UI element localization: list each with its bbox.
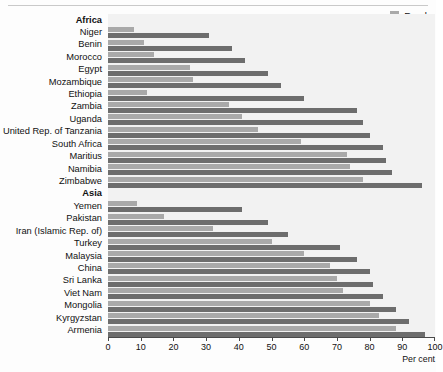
x-axis-tick-label: 30: [201, 342, 211, 352]
category-label: Uganda: [69, 114, 102, 125]
bar-rural: [108, 313, 379, 318]
bar-urban: [108, 257, 357, 262]
bar-urban: [108, 207, 242, 212]
bar-rural: [108, 152, 347, 157]
bar-row: [108, 77, 435, 89]
category-label: Turkey: [74, 238, 102, 249]
bar-urban: [108, 220, 268, 225]
bar-row: [108, 90, 435, 102]
plot-area: [108, 14, 435, 337]
bar-rural: [108, 102, 229, 107]
bar-row: [108, 152, 435, 164]
x-axis-title: Per cent: [402, 354, 435, 364]
bar-urban: [108, 46, 232, 51]
category-label: Mozambique: [49, 77, 102, 88]
bar-row: [108, 313, 435, 325]
category-group-label: Asia: [82, 188, 102, 199]
category-label: Namibia: [68, 164, 102, 175]
x-axis-tick: [272, 337, 273, 341]
category-label: Zimbabwe: [59, 176, 102, 187]
bar-rural: [108, 201, 137, 206]
x-axis-tick-label: 50: [266, 342, 276, 352]
bar-rural: [108, 164, 350, 169]
bar-row: [108, 114, 435, 126]
bar-rural: [108, 214, 164, 219]
bar-urban: [108, 294, 383, 299]
x-axis-tick: [402, 337, 403, 341]
x-axis-tick-label: 100: [427, 342, 442, 352]
bar-rural: [108, 288, 343, 293]
x-axis-tick: [239, 337, 240, 341]
bar-urban: [108, 282, 373, 287]
category-label: Niger: [80, 27, 102, 38]
x-axis-tick: [434, 337, 435, 341]
category-label: Armenia: [67, 325, 102, 336]
bar-urban: [108, 319, 409, 324]
x-axis-tick-label: 70: [332, 342, 342, 352]
bar-urban: [108, 108, 357, 113]
bar-rural: [108, 139, 301, 144]
category-axis-labels: AfricaNigerBeninMoroccoEgyptMozambiqueEt…: [0, 14, 105, 337]
x-axis-tick-label: 60: [299, 342, 309, 352]
x-axis-tick-label: 20: [168, 342, 178, 352]
category-group-label: Africa: [76, 15, 102, 26]
category-label: Yemen: [73, 201, 102, 212]
category-label: United Rep. of Tanzania: [3, 126, 102, 137]
bar-row: [108, 301, 435, 313]
bar-urban: [108, 71, 268, 76]
bar-rural: [108, 77, 193, 82]
bar-rural: [108, 40, 144, 45]
category-label: Egypt: [78, 64, 102, 75]
bar-rural: [108, 114, 242, 119]
bar-row: [108, 65, 435, 77]
bar-rural: [108, 52, 154, 57]
category-label: China: [78, 263, 102, 274]
x-axis-tick-label: 10: [136, 342, 146, 352]
bar-urban: [108, 170, 392, 175]
bar-urban: [108, 58, 245, 63]
bar-urban: [108, 145, 383, 150]
bar-rural: [108, 239, 272, 244]
bar-rural: [108, 65, 190, 70]
category-label: Benin: [78, 39, 102, 50]
x-axis-tick: [173, 337, 174, 341]
bar-row: [108, 201, 435, 213]
bar-urban: [108, 83, 281, 88]
bar-rural: [108, 251, 304, 256]
category-label: Malaysia: [65, 251, 102, 262]
bar-urban: [108, 96, 304, 101]
x-axis-tick: [337, 337, 338, 341]
bar-urban: [108, 232, 288, 237]
x-axis-tick-label: 40: [234, 342, 244, 352]
bar-row-group-header: [108, 15, 435, 27]
bar-rural: [108, 326, 396, 331]
bar-rural: [108, 226, 213, 231]
bar-row: [108, 214, 435, 226]
bar-row: [108, 226, 435, 238]
bar-row: [108, 127, 435, 139]
bar-rural: [108, 276, 337, 281]
bar-rural: [108, 301, 370, 306]
bar-rows: [108, 14, 435, 337]
bar-row: [108, 164, 435, 176]
category-label: Viet Nam: [64, 288, 102, 299]
bar-row: [108, 276, 435, 288]
bar-row-group-header: [108, 189, 435, 201]
category-label: Sri Lanka: [63, 275, 102, 286]
x-axis-tick-label: 90: [397, 342, 407, 352]
bar-row: [108, 263, 435, 275]
bar-row: [108, 102, 435, 114]
x-axis-tick-label: 0: [105, 342, 110, 352]
category-label: Ethiopia: [68, 89, 102, 100]
category-label: Zambia: [71, 101, 102, 112]
bar-urban: [108, 332, 425, 337]
bar-urban: [108, 33, 209, 38]
x-axis-tick: [108, 337, 109, 341]
bar-row: [108, 239, 435, 251]
x-axis-tick: [304, 337, 305, 341]
bar-rural: [108, 127, 258, 132]
x-axis-tick: [206, 337, 207, 341]
category-label: Morocco: [66, 52, 102, 63]
bar-row: [108, 40, 435, 52]
